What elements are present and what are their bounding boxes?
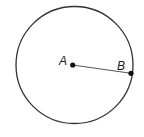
- point-b: [128, 71, 133, 76]
- circle-diagram: A B: [0, 0, 144, 137]
- label-a: A: [58, 54, 67, 68]
- point-a: [70, 62, 75, 67]
- label-b: B: [117, 59, 125, 73]
